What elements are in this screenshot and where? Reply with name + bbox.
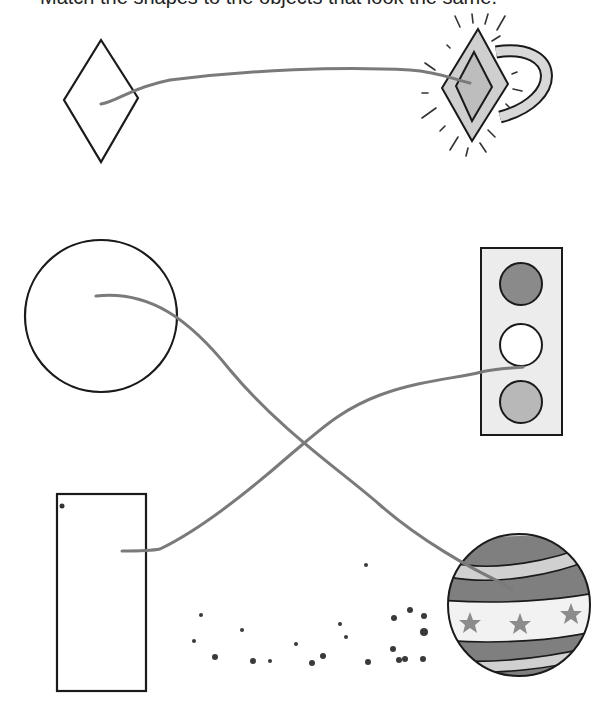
- line-diamond-to-ring: [101, 68, 470, 104]
- light-bottom: [500, 381, 542, 423]
- striped-ball-object[interactable]: [440, 534, 600, 676]
- diamond-shape[interactable]: [64, 40, 138, 162]
- rectangle-shape[interactable]: [57, 494, 146, 691]
- traffic-light-object[interactable]: [481, 248, 562, 435]
- diamond-ring-object[interactable]: [422, 14, 546, 156]
- worksheet-canvas: Match the shapes to the objects that loo…: [0, 0, 610, 708]
- light-middle: [500, 324, 542, 366]
- circle-shape[interactable]: [25, 240, 177, 392]
- worksheet-drawing: [0, 0, 610, 708]
- ink-splatter: [192, 563, 428, 666]
- pen-dot: [60, 504, 65, 509]
- light-top: [500, 263, 542, 305]
- connection-lines: [96, 68, 523, 590]
